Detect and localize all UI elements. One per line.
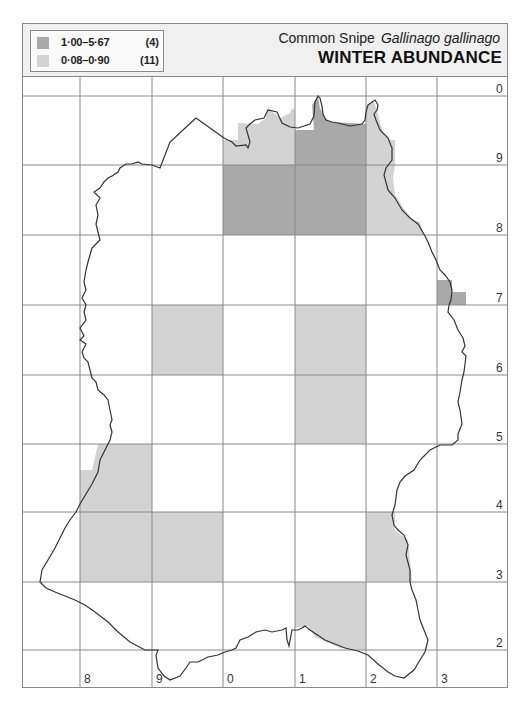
y-label: 3 [496, 568, 503, 582]
cell-2-3 [366, 512, 412, 582]
y-label: 0 [496, 82, 503, 96]
y-label: 6 [496, 361, 503, 375]
x-label: 2 [370, 672, 377, 686]
x-label: 9 [156, 672, 163, 686]
cell-8-3 [80, 512, 152, 582]
legend-swatch-light [37, 55, 49, 67]
x-label: 1 [299, 672, 306, 686]
shaded-cells [80, 97, 466, 650]
cell-1-2 [295, 582, 366, 650]
legend-range: 1·00–5·67 [61, 36, 109, 48]
map-subtitle: WINTER ABUNDANCE [318, 48, 502, 68]
distribution-map [0, 0, 532, 714]
cell-8-4 [80, 444, 152, 512]
y-label: 7 [496, 291, 503, 305]
common-name: Common Snipe [278, 30, 375, 46]
x-label: 3 [441, 672, 448, 686]
y-label: 8 [496, 221, 503, 235]
legend: 1·00–5·67 (4) 0·08–0·90 (11) [30, 30, 164, 72]
legend-item-low: 0·08–0·90 (11) [35, 53, 161, 69]
cell-0-8 [223, 165, 295, 235]
cell-0-9 [223, 108, 295, 165]
cell-9-3 [152, 512, 223, 582]
legend-count: (11) [140, 54, 159, 66]
y-label: 2 [496, 636, 503, 650]
cell-1-8 [295, 165, 366, 235]
cell-1-5 [295, 375, 366, 444]
cell-2-8 [366, 165, 424, 235]
cell-2-9 [366, 100, 395, 165]
legend-swatch-dark [37, 37, 49, 49]
latin-name: Gallinago gallinago [381, 30, 500, 46]
y-label: 4 [496, 498, 503, 512]
y-label: 5 [496, 430, 503, 444]
species-title: Common SnipeGallinago gallinago [278, 30, 500, 46]
x-label: 8 [84, 672, 91, 686]
legend-count: (4) [146, 36, 159, 48]
y-label: 9 [496, 151, 503, 165]
cell-9-6 [152, 305, 223, 375]
legend-range: 0·08–0·90 [61, 54, 109, 66]
cell-1-9 [295, 97, 366, 165]
legend-item-high: 1·00–5·67 (4) [35, 35, 161, 51]
cell-1-6 [295, 305, 366, 375]
x-label: 0 [227, 672, 234, 686]
